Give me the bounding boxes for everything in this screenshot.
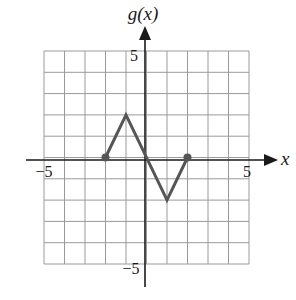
x-axis-label: x [280,148,290,169]
y-axis-label: g(x) [128,3,159,25]
x-max-tick-label: 5 [243,163,251,180]
closed-endpoint-dot [102,154,110,162]
y-axis-arrow-icon [139,26,151,40]
x-min-tick-label: −5 [35,163,52,180]
axes [26,26,278,287]
x-axis-arrow-icon [264,154,278,166]
y-max-tick-label: 5 [130,47,138,64]
y-min-tick-label: −5 [122,260,139,277]
closed-endpoint-dot [184,154,192,162]
function-graph: g(x) x 5 −5 −5 5 [0,0,296,300]
